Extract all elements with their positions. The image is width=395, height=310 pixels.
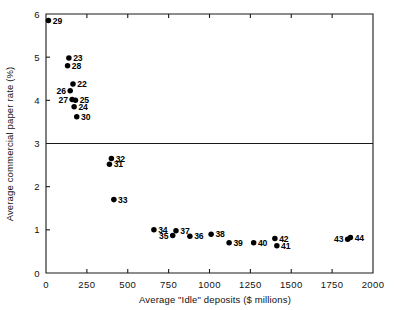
data-point: 28 (65, 61, 82, 71)
data-point-label-30: 30 (81, 112, 91, 122)
x-tick-label-500: 500 (119, 279, 136, 290)
x-tick-label-0: 0 (43, 279, 49, 290)
y-tick-label-1: 1 (34, 224, 40, 235)
data-point: 39 (226, 238, 243, 248)
data-point: 36 (187, 231, 204, 241)
data-point-marker-30 (74, 114, 80, 120)
data-point-marker-33 (111, 197, 117, 203)
data-point: 35 (159, 231, 175, 241)
data-point-label-28: 28 (72, 61, 82, 71)
data-point-marker-39 (226, 240, 232, 246)
y-tick-label-2: 2 (34, 181, 40, 192)
data-point-label-43: 43 (334, 234, 344, 244)
data-point-label-22: 22 (77, 79, 87, 89)
data-point: 33 (111, 195, 128, 205)
scatter-plot-figure: 025050075010001250150017502000 0123456 2… (0, 0, 395, 310)
y-tick-label-6: 6 (34, 9, 40, 20)
data-point-marker-44 (348, 235, 354, 241)
data-point-marker-35 (170, 233, 176, 239)
data-point-marker-28 (65, 63, 71, 69)
data-point-label-41: 41 (281, 241, 291, 251)
y-tick-label-5: 5 (34, 52, 40, 63)
data-point: 27 (59, 95, 75, 105)
data-point-marker-37 (173, 228, 179, 234)
data-point: 24 (71, 102, 88, 112)
x-axis-title: Average "Idle" deposits ($ millions) (139, 294, 291, 305)
y-tick-label-4: 4 (34, 95, 40, 106)
x-tick-label-1500: 1500 (280, 279, 303, 290)
x-axis-ticks: 025050075010001250150017502000 (43, 14, 384, 290)
x-tick-label-1000: 1000 (198, 279, 221, 290)
x-tick-label-2000: 2000 (362, 279, 385, 290)
data-point: 38 (208, 229, 225, 239)
data-point-marker-25 (73, 98, 79, 104)
data-point-label-31: 31 (114, 159, 124, 169)
data-point-label-36: 36 (194, 231, 204, 241)
data-point-label-33: 33 (118, 195, 128, 205)
x-tick-label-1250: 1250 (239, 279, 262, 290)
y-tick-label-0: 0 (34, 268, 40, 279)
data-point: 41 (274, 241, 291, 251)
data-point-label-40: 40 (258, 238, 268, 248)
data-point-label-27: 27 (59, 95, 69, 105)
data-point: 31 (107, 159, 124, 169)
data-point-marker-40 (251, 240, 257, 246)
data-point-marker-38 (208, 231, 214, 237)
x-tick-label-1750: 1750 (321, 279, 344, 290)
x-tick-label-250: 250 (78, 279, 95, 290)
data-point-marker-29 (46, 18, 52, 24)
data-point-marker-42 (272, 236, 278, 242)
data-point-marker-41 (274, 243, 280, 249)
data-point-label-44: 44 (355, 233, 365, 243)
data-point: 40 (251, 238, 268, 248)
y-axis-title: Average commercial paper rate (%) (4, 67, 15, 222)
data-point: 37 (173, 226, 190, 236)
data-point-group: 2923282226272524303231333437353638394042… (46, 16, 365, 251)
data-point-marker-26 (67, 88, 73, 94)
data-point-label-38: 38 (215, 229, 225, 239)
data-point-marker-24 (71, 104, 77, 110)
data-point-label-29: 29 (53, 16, 63, 26)
data-point-marker-23 (66, 55, 72, 61)
plot-canvas: 025050075010001250150017502000 0123456 2… (0, 0, 395, 310)
data-point: 43 (334, 234, 350, 244)
data-point: 44 (348, 233, 365, 243)
data-point-marker-34 (151, 227, 157, 233)
data-point: 29 (46, 16, 63, 26)
data-point-marker-31 (107, 161, 113, 167)
data-point: 30 (74, 112, 91, 122)
data-point-label-39: 39 (233, 238, 243, 248)
x-tick-label-750: 750 (160, 279, 177, 290)
y-tick-label-3: 3 (34, 138, 40, 149)
data-point-marker-36 (187, 234, 193, 240)
data-point-marker-22 (70, 81, 76, 87)
data-point-label-35: 35 (159, 231, 169, 241)
data-point-label-24: 24 (78, 102, 88, 112)
data-point: 22 (70, 79, 87, 89)
